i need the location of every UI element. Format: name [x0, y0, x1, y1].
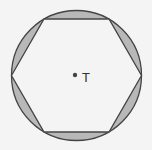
- hexagon-in-circle-figure: T: [0, 0, 152, 150]
- center-point: [73, 73, 77, 77]
- center-label: T: [82, 70, 90, 85]
- diagram: T: [0, 0, 152, 150]
